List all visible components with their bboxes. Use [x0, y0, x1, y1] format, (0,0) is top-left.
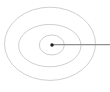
- nucleus-dot: [50, 43, 53, 46]
- concentric-circles-diagram: [0, 0, 110, 92]
- middle-orbit-ellipse: [19, 24, 81, 66]
- diagram-canvas: [0, 0, 110, 92]
- outer-orbit-ellipse: [5, 7, 96, 80]
